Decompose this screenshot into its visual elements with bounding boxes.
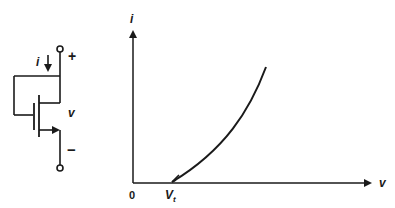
iv-curve [172,67,266,182]
origin-label: 0 [129,190,135,201]
diagram-svg [0,0,395,208]
threshold-label: Vt [165,189,176,204]
top-terminal-icon [57,46,63,52]
bottom-terminal-icon [57,165,63,171]
plus-label: + [68,49,76,63]
x-axis-label: v [379,177,386,189]
current-label: i [36,56,39,68]
y-axis-label: i [130,13,133,25]
minus-label: − [67,142,76,157]
threshold-label-subscript: t [173,195,176,204]
threshold-label-main: V [165,188,173,202]
diagram-canvas: i + v − i v 0 Vt [0,0,395,208]
voltage-label: v [68,107,75,119]
iv-graph [133,32,370,183]
